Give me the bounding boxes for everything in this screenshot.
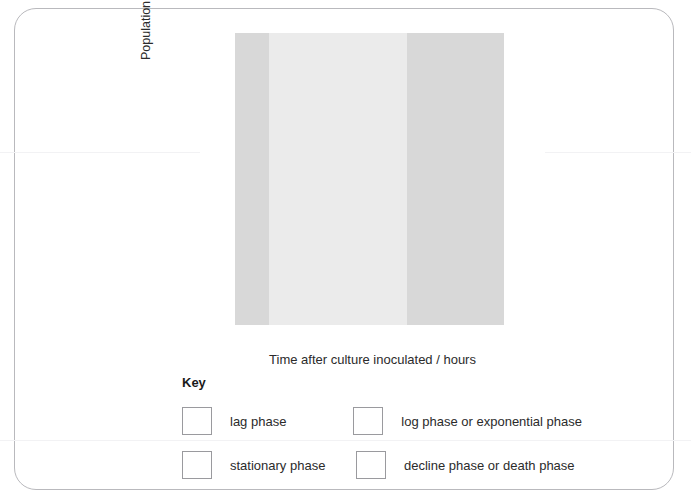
key-label-decline-phase: decline phase or death phase: [404, 458, 575, 473]
key-title: Key: [182, 375, 582, 390]
key-entry-log-phase: log phase or exponential phase: [353, 407, 582, 435]
key-label-lag-phase: lag phase: [230, 414, 286, 429]
key-label-stationary-phase: stationary phase: [230, 458, 325, 473]
key-swatch-lag-phase: [182, 407, 212, 435]
key-entry-stationary-phase: stationary phase: [182, 451, 356, 479]
x-axis-title: Time after culture inoculated / hours: [200, 352, 545, 367]
key-legend: Key lag phase log phase or exponential p…: [182, 375, 582, 487]
growth-curve-figure: Population / cell number x 106 cm-3 Time…: [0, 0, 691, 503]
growth-curve-plot: [200, 33, 545, 325]
key-entry-lag-phase: lag phase: [182, 407, 353, 435]
plot-area: [200, 33, 545, 325]
key-entry-decline-phase: decline phase or death phase: [356, 451, 575, 479]
key-row: stationary phase decline phase or death …: [182, 443, 582, 487]
key-swatch-log-phase: [353, 407, 383, 435]
key-swatch-decline-phase: [356, 451, 386, 479]
key-swatch-stationary-phase: [182, 451, 212, 479]
y-axis-title-main: Population / cell number x 10: [139, 0, 153, 60]
key-row: lag phase log phase or exponential phase: [182, 399, 582, 443]
y-axis-title: Population / cell number x 106 cm-3: [137, 0, 153, 60]
key-label-log-phase: log phase or exponential phase: [401, 414, 582, 429]
